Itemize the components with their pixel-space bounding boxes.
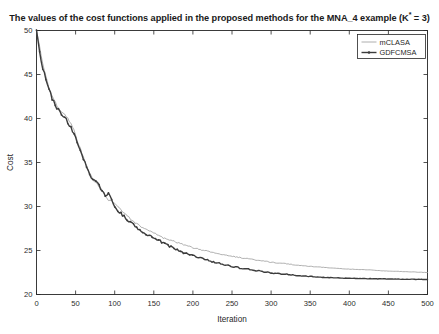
y-tick-label: 25 bbox=[24, 246, 32, 255]
series-marker bbox=[151, 236, 153, 238]
series-marker bbox=[126, 220, 128, 222]
series-marker bbox=[42, 68, 44, 70]
series-marker bbox=[142, 232, 144, 234]
series-marker bbox=[148, 235, 150, 237]
series-marker bbox=[73, 133, 75, 135]
series-marker bbox=[183, 253, 185, 255]
series-marker bbox=[155, 238, 157, 240]
series-marker bbox=[176, 248, 178, 250]
series-marker bbox=[167, 244, 169, 246]
y-tick-label: 50 bbox=[24, 26, 32, 35]
series-marker bbox=[70, 126, 72, 128]
series-marker bbox=[89, 174, 91, 176]
y-tick-label: 30 bbox=[24, 202, 32, 211]
series-marker bbox=[95, 180, 97, 182]
y-axis-title: Cost bbox=[6, 153, 15, 171]
series-marker bbox=[104, 195, 106, 197]
x-tick-label: 150 bbox=[147, 299, 160, 308]
series-line-mclasa bbox=[37, 30, 428, 272]
series-marker bbox=[123, 215, 125, 217]
series-marker bbox=[161, 242, 163, 244]
x-tick-label: 50 bbox=[71, 299, 79, 308]
x-tick-label: 300 bbox=[265, 299, 278, 308]
plot-area: 0501001502002503003504004505002025303540… bbox=[0, 0, 439, 334]
series-marker bbox=[61, 114, 63, 116]
series-marker bbox=[58, 108, 60, 110]
series-marker bbox=[114, 206, 116, 208]
series-marker bbox=[101, 190, 103, 192]
series-marker bbox=[139, 229, 141, 231]
series-marker bbox=[170, 245, 172, 247]
series-marker bbox=[83, 159, 85, 161]
legend-label-gdfcmsa: GDFCMSA bbox=[380, 48, 417, 57]
figure-canvas: The values of the cost functions applied… bbox=[0, 0, 439, 334]
x-tick-label: 350 bbox=[304, 299, 317, 308]
legend: mCLASAGDFCMSA bbox=[358, 35, 426, 59]
series-marker bbox=[64, 116, 66, 118]
series-marker bbox=[39, 51, 41, 53]
series-marker bbox=[189, 254, 191, 256]
series-marker bbox=[133, 223, 135, 225]
series-marker bbox=[45, 79, 47, 81]
series-marker bbox=[158, 239, 160, 241]
legend-marker-gdfcmsa bbox=[368, 51, 371, 54]
series-marker bbox=[186, 252, 188, 254]
series-marker bbox=[86, 166, 88, 168]
series-marker bbox=[108, 192, 110, 194]
series-marker bbox=[120, 212, 122, 214]
series-marker bbox=[76, 142, 78, 144]
y-tick-label: 45 bbox=[24, 70, 32, 79]
x-tick-label: 200 bbox=[187, 299, 200, 308]
series-marker bbox=[117, 211, 119, 213]
series-marker bbox=[173, 248, 175, 250]
y-tick-label: 35 bbox=[24, 158, 32, 167]
plot-frame bbox=[37, 31, 428, 295]
x-tick-label: 500 bbox=[421, 299, 434, 308]
x-tick-label: 100 bbox=[108, 299, 121, 308]
y-tick-label: 20 bbox=[24, 290, 32, 299]
series-marker bbox=[54, 105, 56, 107]
legend-label-mclasa: mCLASA bbox=[380, 38, 410, 47]
series-marker bbox=[136, 226, 138, 228]
series-marker bbox=[51, 99, 53, 101]
series-marker bbox=[67, 123, 69, 125]
series-marker bbox=[36, 29, 38, 31]
series-marker bbox=[79, 149, 81, 151]
x-tick-label: 450 bbox=[382, 299, 395, 308]
x-tick-label: 250 bbox=[226, 299, 239, 308]
series-marker bbox=[164, 242, 166, 244]
series-marker bbox=[98, 184, 100, 186]
series-markers-gdfcmsa bbox=[36, 29, 194, 256]
x-tick-label: 400 bbox=[343, 299, 356, 308]
series-marker bbox=[92, 179, 94, 181]
y-tick-label: 40 bbox=[24, 114, 32, 123]
series-line-gdfcmsa bbox=[37, 30, 428, 279]
series-marker bbox=[192, 254, 194, 256]
series-marker bbox=[145, 234, 147, 236]
x-axis-title: Iteration bbox=[217, 315, 247, 324]
series-marker bbox=[180, 250, 182, 252]
x-tick-label: 0 bbox=[34, 299, 38, 308]
series-marker bbox=[129, 221, 131, 223]
series-marker bbox=[111, 198, 113, 200]
series-marker bbox=[48, 88, 50, 90]
